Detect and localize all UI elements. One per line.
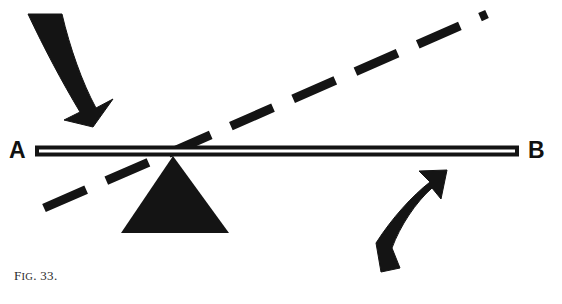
beam-label-a: A: [9, 139, 26, 162]
caption-suffix: . 33.: [33, 268, 57, 283]
caption-prefix: F: [14, 268, 22, 283]
figure-caption: FIG. 33.: [14, 268, 57, 284]
beam-core: [39, 150, 515, 153]
arrow-down-body: [28, 14, 113, 127]
applied-force-arrow-down: [28, 14, 113, 127]
figure-container: A B FIG. 33.: [0, 0, 562, 304]
arrow-up-body: [376, 170, 447, 272]
dashed-stroke: [44, 14, 487, 208]
tilted-position-dashed-line: [44, 14, 487, 208]
resistance-force-arrow-up: [376, 170, 447, 272]
beam-label-b: B: [528, 139, 545, 162]
caption-smallcaps: IG: [22, 271, 34, 282]
lever-beam: [35, 146, 519, 157]
lever-diagram-canvas: [0, 0, 562, 304]
